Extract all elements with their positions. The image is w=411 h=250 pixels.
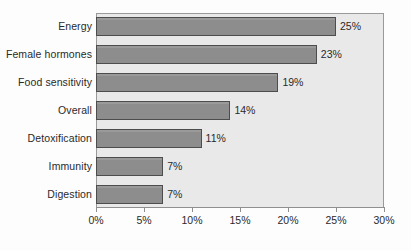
bar-highlight bbox=[97, 158, 162, 160]
bar-highlight bbox=[97, 102, 229, 104]
bar bbox=[96, 185, 163, 204]
bar-value-label: 11% bbox=[206, 133, 226, 144]
bar-value-label: 7% bbox=[167, 161, 182, 172]
bar-highlight bbox=[97, 74, 277, 76]
bar-highlight bbox=[97, 46, 316, 48]
x-tick-label: 15% bbox=[229, 214, 250, 226]
category-label: Energy bbox=[0, 21, 92, 32]
bar bbox=[96, 45, 317, 64]
category-label: Female hormones bbox=[0, 49, 92, 60]
category-label: Overall bbox=[0, 105, 92, 116]
bar-value-label: 23% bbox=[321, 49, 342, 60]
x-tick-mark bbox=[144, 208, 145, 212]
bar bbox=[96, 17, 336, 36]
bar-highlight bbox=[97, 18, 335, 20]
x-tick-label: 0% bbox=[88, 214, 103, 226]
x-tick-mark bbox=[240, 208, 241, 212]
bar-value-label: 14% bbox=[234, 105, 255, 116]
bar bbox=[96, 129, 202, 148]
x-tick-mark bbox=[336, 208, 337, 212]
x-tick-mark bbox=[288, 208, 289, 212]
bar bbox=[96, 73, 278, 92]
x-tick-label: 25% bbox=[325, 214, 346, 226]
x-tick-label: 20% bbox=[277, 214, 298, 226]
category-label: Immunity bbox=[0, 161, 92, 172]
x-tick-mark bbox=[192, 208, 193, 212]
category-axis-labels: EnergyFemale hormonesFood sensitivityOve… bbox=[0, 13, 92, 208]
category-label: Detoxification bbox=[0, 133, 92, 144]
x-tick-label: 30% bbox=[373, 214, 394, 226]
x-tick-label: 10% bbox=[181, 214, 202, 226]
bar-highlight bbox=[97, 186, 162, 188]
bar bbox=[96, 157, 163, 176]
x-tick-label: 5% bbox=[136, 214, 151, 226]
x-tick-mark bbox=[96, 208, 97, 212]
x-tick-mark bbox=[384, 208, 385, 212]
bar-value-label: 25% bbox=[340, 21, 361, 32]
bar-value-label: 19% bbox=[282, 77, 303, 88]
category-label: Food sensitivity bbox=[0, 77, 92, 88]
bar bbox=[96, 101, 230, 120]
bar-value-label: 7% bbox=[167, 189, 182, 200]
bar-highlight bbox=[97, 130, 201, 132]
bar-chart: EnergyFemale hormonesFood sensitivityOve… bbox=[0, 0, 411, 250]
category-label: Digestion bbox=[0, 189, 92, 200]
